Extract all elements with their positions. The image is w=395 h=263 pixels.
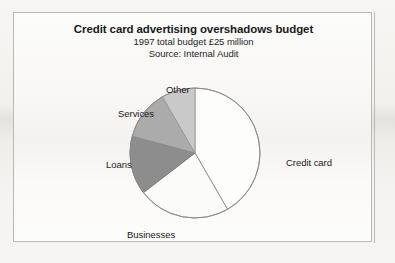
page-right-rule <box>374 12 375 243</box>
pie-label-credit-card: Credit card <box>286 157 332 168</box>
pie-label-businesses: Businesses <box>127 229 175 240</box>
pie-chart-svg <box>14 13 373 243</box>
pie-chart: Credit card Businesses Loans Services Ot… <box>14 13 373 243</box>
pie-label-loans: Loans <box>106 159 132 170</box>
chart-frame: Credit card advertising overshadows budg… <box>13 12 372 242</box>
pie-label-services: Services <box>118 108 154 119</box>
pie-label-other: Other <box>166 84 190 95</box>
figure-page: Credit card advertising overshadows budg… <box>0 0 395 263</box>
